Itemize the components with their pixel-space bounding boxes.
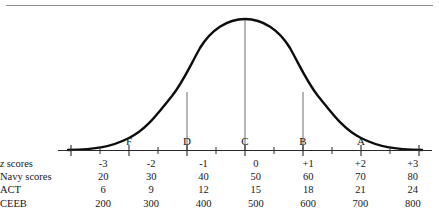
grade-marker-C: C (241, 136, 248, 147)
cell-z--2: -2 (125, 157, 177, 170)
table-row-ceeb: CEEB 200 300 400 500 600 700 800 (0, 197, 439, 210)
table-row-navy-scores: Navy scores 20 30 40 50 60 70 80 (0, 170, 439, 183)
row-label-act: ACT (0, 183, 81, 196)
cell-navy-4: 50 (230, 170, 282, 183)
cell-act-4: 15 (230, 183, 282, 196)
cell-z-0: 0 (230, 157, 282, 170)
droplines (187, 19, 303, 150)
cell-z--1: -1 (177, 157, 229, 170)
cell-z-+2: +2 (334, 157, 386, 170)
cell-act-1: 6 (81, 183, 125, 196)
cell-ceeb-4: 500 (230, 197, 282, 210)
cell-navy-2: 30 (125, 170, 177, 183)
cell-ceeb-6: 700 (334, 197, 386, 210)
cell-z--3: -3 (81, 157, 125, 170)
cell-navy-1: 20 (81, 170, 125, 183)
cell-z-+1: +1 (282, 157, 334, 170)
grade-marker-F: F (126, 136, 132, 147)
table-row-z-scores: z scores -3 -2 -1 0 +1 +2 +3 (0, 157, 439, 170)
row-label-z-scores: z scores (0, 157, 81, 170)
cell-ceeb-5: 600 (282, 197, 334, 210)
cell-act-2: 9 (125, 183, 177, 196)
grade-marker-A: A (357, 136, 365, 147)
cell-navy-3: 40 (177, 170, 229, 183)
cell-ceeb-1: 200 (81, 197, 125, 210)
bell-curve-svg (0, 0, 439, 160)
cell-act-6: 21 (334, 183, 386, 196)
row-label-navy-scores: Navy scores (0, 170, 81, 183)
cell-navy-5: 60 (282, 170, 334, 183)
score-conversion-table: z scores -3 -2 -1 0 +1 +2 +3 Navy scores… (0, 157, 439, 210)
normal-distribution-figure: F D C B A (0, 0, 439, 160)
cell-ceeb-7: 800 (387, 197, 439, 210)
cell-act-7: 24 (387, 183, 439, 196)
table-row-act: ACT 6 9 12 15 18 21 24 (0, 183, 439, 196)
grade-marker-B: B (299, 136, 306, 147)
cell-act-5: 18 (282, 183, 334, 196)
grade-marker-D: D (183, 136, 191, 147)
cell-navy-6: 70 (334, 170, 386, 183)
cell-act-3: 12 (177, 183, 229, 196)
cell-z-+3: +3 (387, 157, 439, 170)
cell-ceeb-2: 300 (125, 197, 177, 210)
cell-navy-7: 80 (387, 170, 439, 183)
row-label-ceeb: CEEB (0, 197, 81, 210)
cell-ceeb-3: 400 (177, 197, 229, 210)
